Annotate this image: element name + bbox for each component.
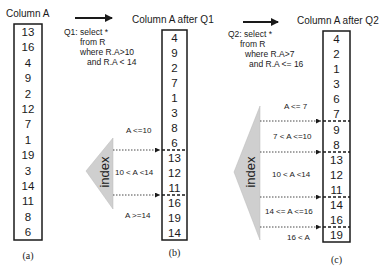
- cell: 14: [22, 180, 35, 192]
- cell: 2: [333, 48, 339, 60]
- cell: 12: [22, 103, 35, 115]
- column-c-cells: 4 2 1 3 6 7 9 8 13 12 11 14 16 19: [330, 33, 343, 241]
- panel-b-caption: (b): [169, 247, 181, 259]
- cell: 4: [25, 57, 32, 69]
- panel-c-title: Column A after Q2: [297, 15, 379, 26]
- q2-line: where R.A>7: [244, 49, 295, 59]
- cell: 6: [171, 137, 177, 149]
- cell: 7: [25, 118, 31, 130]
- panel-c-caption: (c): [331, 254, 342, 266]
- cell: 9: [25, 72, 31, 84]
- cell: 8: [171, 122, 177, 134]
- q2-line: from R: [240, 39, 266, 49]
- index-label: index: [243, 156, 258, 188]
- cell: 19: [168, 212, 181, 224]
- cell: 14: [330, 199, 343, 211]
- cell: 19: [330, 229, 343, 241]
- cell: 2: [171, 62, 177, 74]
- q2-transition: Q2: select * from R where R.A>7 and R.A …: [228, 22, 304, 69]
- range-label: 14 <= A <=16: [265, 207, 313, 216]
- cell: 8: [333, 139, 339, 151]
- range-label: 10 < A <14: [272, 170, 311, 179]
- q1-transition: Q1: select * from R where R.A>10 and R.A…: [64, 18, 137, 67]
- panel-b-title: Column A after Q1: [132, 14, 214, 25]
- cell: 13: [330, 154, 343, 166]
- cell: 13: [168, 152, 181, 164]
- cell: 3: [25, 165, 31, 177]
- cell: 7: [171, 77, 177, 89]
- cell: 6: [333, 93, 339, 105]
- range-label: 16 < A: [287, 233, 311, 242]
- range-label: A <= 7: [284, 102, 308, 111]
- cell: 7: [333, 108, 339, 120]
- q1-line: from R: [80, 37, 106, 47]
- column-b-cells: 4 9 2 7 1 3 8 6 13 12 11 16 19 14: [168, 32, 181, 239]
- q2-line: Q2: select *: [228, 29, 273, 39]
- column-a-cells: 13 16 4 9 2 12 7 1 19 3 14 11 8 6: [22, 26, 35, 238]
- cell: 11: [331, 184, 343, 196]
- range-label: 10 < A <14: [115, 168, 154, 177]
- cell: 19: [22, 149, 35, 161]
- cell: 12: [168, 167, 181, 179]
- cell: 3: [171, 107, 177, 119]
- cell: 11: [169, 182, 181, 194]
- q2-line: and R.A <= 16: [249, 59, 304, 69]
- range-label: 7 < A <=10: [273, 132, 312, 141]
- cell: 12: [330, 169, 343, 181]
- cell: 2: [25, 88, 31, 100]
- cell: 4: [171, 32, 178, 44]
- cell: 16: [330, 214, 343, 226]
- cell: 1: [25, 134, 31, 146]
- cell: 1: [171, 92, 177, 104]
- cell: 13: [22, 26, 35, 38]
- q1-line: where R.A>10: [79, 47, 134, 57]
- cell: 8: [25, 211, 31, 223]
- cell: 9: [171, 47, 177, 59]
- index-label: index: [97, 156, 112, 188]
- cell: 11: [22, 195, 34, 207]
- panel-a: Column A 13 16 4 9 2 12 7 1 19 3 14 11 8…: [6, 8, 50, 262]
- cell: 14: [168, 227, 181, 239]
- panel-a-title: Column A: [6, 8, 50, 19]
- cell: 4: [333, 33, 340, 45]
- range-label: A <=10: [126, 126, 152, 135]
- q1-line: and R.A < 14: [87, 57, 137, 67]
- cell: 9: [333, 124, 339, 136]
- range-label: A >=14: [125, 211, 151, 220]
- q1-line: Q1: select *: [64, 27, 109, 37]
- panel-a-caption: (a): [22, 250, 33, 262]
- cell: 16: [22, 41, 35, 53]
- cell: 16: [168, 197, 181, 209]
- cell: 1: [333, 63, 339, 75]
- cell: 6: [25, 226, 31, 238]
- cracking-diagram: Column A 13 16 4 9 2 12 7 1 19 3 14 11 8…: [0, 0, 383, 272]
- cell: 3: [333, 78, 339, 90]
